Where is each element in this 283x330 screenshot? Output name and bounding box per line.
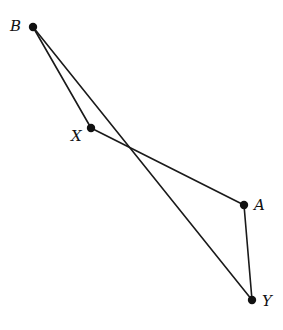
point-a — [240, 201, 248, 209]
point-label-x: X — [70, 127, 83, 145]
point-label-a: A — [252, 196, 265, 214]
point-label-y: Y — [262, 292, 274, 310]
point-y — [248, 296, 256, 304]
point-x — [87, 124, 95, 132]
geometry-diagram: BXAY — [0, 0, 283, 330]
segment-bx — [33, 27, 91, 128]
segment-by — [33, 27, 252, 300]
point-b — [29, 23, 37, 31]
segment-ay — [244, 205, 252, 300]
segments-group — [33, 27, 252, 300]
point-label-b: B — [9, 17, 21, 35]
diagram-canvas: BXAY — [0, 0, 283, 330]
